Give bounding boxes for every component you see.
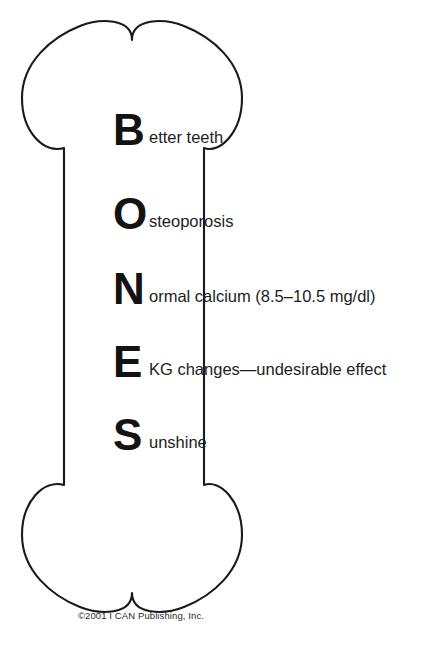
bones-mnemonic-figure: B etter teeth O steoporosis N ormal calc…	[0, 0, 434, 645]
mnemonic-row: E KG changes—undesirable effect	[113, 340, 386, 384]
mnemonic-letter: O	[113, 192, 143, 236]
mnemonic-text: unshine	[149, 433, 207, 451]
mnemonic-text: steoporosis	[149, 212, 233, 230]
copyright-notice: ©2001 I CAN Publishing, Inc.	[78, 610, 204, 622]
mnemonic-text: etter teeth	[149, 128, 223, 146]
mnemonic-row: B etter teeth	[113, 108, 223, 152]
mnemonic-row: S unshine	[113, 413, 207, 457]
mnemonic-text: KG changes—undesirable effect	[149, 360, 386, 378]
mnemonic-letter: S	[113, 413, 143, 457]
mnemonic-row: O steoporosis	[113, 192, 233, 236]
mnemonic-letter: B	[113, 108, 143, 152]
mnemonic-row: N ormal calcium (8.5–10.5 mg/dl)	[113, 267, 376, 311]
mnemonic-text: ormal calcium (8.5–10.5 mg/dl)	[149, 287, 376, 305]
mnemonic-letter: E	[113, 340, 143, 384]
mnemonic-letter: N	[113, 267, 143, 311]
bone-outline-icon	[0, 0, 434, 645]
